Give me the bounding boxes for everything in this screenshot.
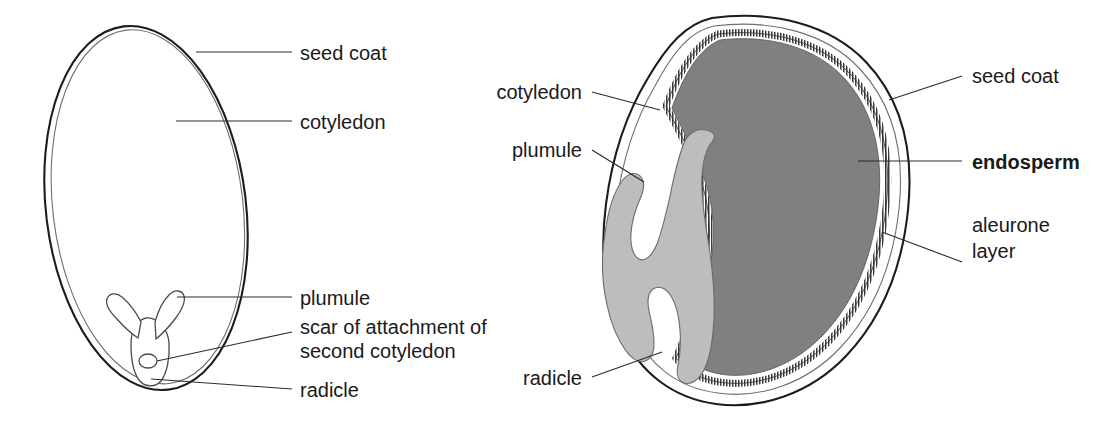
label-left-plumule: plumule — [300, 287, 370, 309]
label-left-cotyledon: cotyledon — [300, 111, 386, 133]
label-right-cotyledon: cotyledon — [496, 81, 582, 103]
diagram-canvas: seed coat cotyledon plumule scar of atta… — [0, 0, 1096, 432]
label-right-endosperm: endosperm — [972, 151, 1080, 173]
right-panel-group: cotyledon plumule radicle seed coat endo… — [496, 16, 1079, 405]
left-scar-oval — [139, 354, 157, 368]
left-panel-group: seed coat cotyledon plumule scar of atta… — [24, 14, 487, 402]
label-right-aleurone-line2: layer — [972, 240, 1016, 262]
label-right-plumule: plumule — [512, 139, 582, 161]
label-right-seed-coat: seed coat — [972, 65, 1059, 87]
label-left-scar-line2: second cotyledon — [300, 340, 456, 362]
label-left-seed-coat: seed coat — [300, 42, 387, 64]
label-right-aleurone-line1: aleurone — [972, 214, 1050, 236]
seed-structure-figure: seed coat cotyledon plumule scar of atta… — [0, 0, 1096, 432]
label-left-radicle: radicle — [300, 379, 359, 401]
label-right-radicle: radicle — [523, 367, 582, 389]
label-left-scar-line1: scar of attachment of — [300, 316, 487, 338]
leader-right-seed-coat — [889, 76, 962, 100]
